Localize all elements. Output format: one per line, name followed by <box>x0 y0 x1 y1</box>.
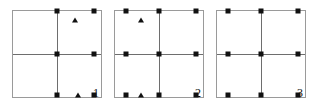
triangle-marker <box>75 93 81 98</box>
figure-canvas: 1 2 3 <box>0 0 320 110</box>
panel-1: 1 <box>12 10 102 98</box>
square-marker <box>259 9 264 14</box>
triangle-marker <box>72 17 78 22</box>
square-marker <box>259 52 264 57</box>
square-marker <box>157 9 162 14</box>
square-marker <box>193 52 198 57</box>
panel-2: 2 <box>114 10 204 98</box>
square-marker <box>123 52 128 57</box>
square-marker <box>55 93 60 98</box>
square-marker <box>259 93 264 98</box>
triangle-marker <box>138 17 144 22</box>
square-marker <box>123 93 128 98</box>
square-marker <box>295 9 300 14</box>
square-marker <box>91 9 96 14</box>
triangle-marker <box>138 93 144 98</box>
panel-2-label: 2 <box>195 87 201 99</box>
square-marker <box>55 9 60 14</box>
square-marker <box>225 52 230 57</box>
square-marker <box>55 52 60 57</box>
square-marker <box>225 9 230 14</box>
square-marker <box>123 9 128 14</box>
panel-1-label: 1 <box>93 87 99 99</box>
square-marker <box>225 93 230 98</box>
panel-3-label: 3 <box>297 87 303 99</box>
square-marker <box>295 52 300 57</box>
square-marker <box>157 93 162 98</box>
square-marker <box>193 9 198 14</box>
square-marker <box>157 52 162 57</box>
square-marker <box>91 52 96 57</box>
panel-3: 3 <box>216 10 306 98</box>
